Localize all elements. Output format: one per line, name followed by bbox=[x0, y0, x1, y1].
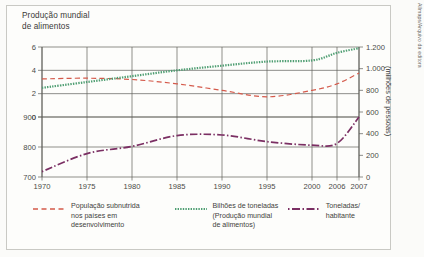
x-axis-tick: 1980 bbox=[124, 182, 141, 191]
x-axis-tick: 1975 bbox=[79, 182, 96, 191]
right-axis-tick: 200 bbox=[366, 151, 379, 160]
x-axis-tick: 1990 bbox=[214, 182, 231, 191]
right-axis-tick: 400 bbox=[366, 129, 379, 138]
x-axis-tick: 2000 bbox=[304, 182, 321, 191]
right-axis-tick: 600 bbox=[366, 108, 379, 117]
legend-swatch-dashed bbox=[32, 204, 66, 214]
left-axis-tick: 700 bbox=[23, 173, 36, 182]
x-axis-tick: 2007 bbox=[351, 182, 368, 191]
left-axis-tick: 800 bbox=[23, 143, 36, 152]
x-axis-tick: 2006 bbox=[329, 182, 346, 191]
left-axis-tick: 4 bbox=[32, 66, 36, 75]
right-axis-tick: 1.200 bbox=[366, 43, 385, 52]
right-axis-tick: 1.000 bbox=[366, 64, 385, 73]
x-axis-tick: 1985 bbox=[169, 182, 186, 191]
left-axis-tick: 2 bbox=[32, 89, 36, 98]
legend-label-toneladas-habitante: Toneladas/ habitante bbox=[326, 202, 360, 221]
legend-item-populacao-subnutrida: População subnutrida nos países em desen… bbox=[12, 202, 174, 231]
series-line bbox=[42, 73, 359, 97]
chart-legend: População subnutrida nos países em desen… bbox=[12, 202, 384, 248]
legend-label-bilhoes-toneladas: Bilhões de toneladas (Produção mundial d… bbox=[213, 202, 279, 231]
legend-item-toneladas-habitante: Toneladas/ habitante bbox=[287, 202, 384, 221]
series-line bbox=[42, 117, 359, 172]
series-line bbox=[42, 48, 359, 88]
x-axis-tick: 1995 bbox=[259, 182, 276, 191]
x-axis-tick: 1970 bbox=[34, 182, 51, 191]
chart-figure: Produção mundial de alimentos Allmaps/Ar… bbox=[0, 0, 424, 257]
legend-item-bilhoes-toneladas: Bilhões de toneladas (Produção mundial d… bbox=[174, 202, 287, 231]
left-axis-tick: 6 bbox=[32, 43, 36, 52]
legend-swatch-dashdot bbox=[287, 204, 321, 214]
left-axis-tick: 900 bbox=[23, 113, 36, 122]
legend-label-populacao-subnutrida: População subnutrida nos países em desen… bbox=[71, 202, 140, 231]
right-axis-tick: 0 bbox=[366, 173, 370, 182]
legend-swatch-dotted bbox=[174, 204, 208, 214]
right-axis-tick: 800 bbox=[366, 86, 379, 95]
